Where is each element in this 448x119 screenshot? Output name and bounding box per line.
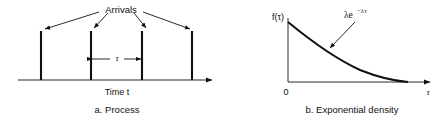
time-axis-label: Time t: [105, 87, 130, 97]
panel-exponential: λe −λτ f(τ) 0 τ b. Exponential density: [272, 7, 430, 115]
curve-annotation-exponent: −λτ: [357, 7, 367, 14]
arrivals-leader-arrow: [45, 12, 99, 29]
origin-label: 0: [283, 87, 288, 97]
density-x-axis-label: τ: [426, 87, 430, 97]
figure-svg: Arrivals τ Time t a. Process λe −λτ: [0, 0, 448, 119]
figure-container: Arrivals τ Time t a. Process λe −λτ: [0, 0, 448, 119]
arrivals-label: Arrivals: [105, 4, 137, 15]
arrivals-leader-arrow: [143, 12, 190, 29]
panel-b-caption: b. Exponential density: [306, 104, 399, 115]
curve-annotation-group: λe −λτ: [344, 7, 367, 20]
curve-annotation-base: λe: [344, 10, 353, 20]
curve-annotation-arrow: [330, 22, 355, 48]
exponential-curve: [288, 22, 408, 82]
panel-a-caption: a. Process: [95, 104, 140, 115]
arrivals-leader-arrow: [134, 13, 146, 28]
density-y-axis-label: f(τ): [272, 12, 284, 22]
arrivals-leader-arrow: [94, 13, 108, 28]
panel-process: Arrivals τ Time t a. Process: [18, 4, 212, 115]
